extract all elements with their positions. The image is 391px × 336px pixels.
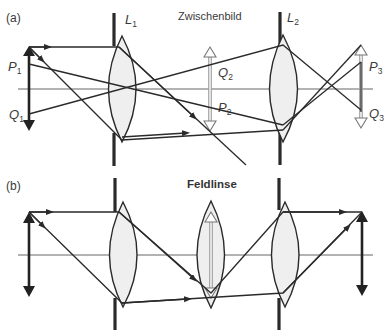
panel-b-label: (b): [6, 179, 21, 193]
panel-b: (b) Feldlinse: [6, 178, 373, 330]
rays-a: [29, 45, 361, 165]
point-p1-label: P1: [8, 59, 22, 76]
point-q1-label: Q1: [9, 107, 24, 124]
intermediate-arrowhead-top: [204, 47, 216, 57]
lens-l2: [270, 35, 298, 142]
final-arrowhead-bottom-a: [355, 118, 367, 128]
point-q2-label: Q2: [218, 65, 233, 82]
intermediate-image-title: Zwischenbild: [178, 10, 242, 22]
field-lens-title: Feldlinse: [187, 178, 237, 190]
point-p2-label: P2: [218, 100, 232, 117]
intermediate-arrowhead-bottom: [204, 121, 216, 131]
point-p3-label: P3: [369, 59, 383, 76]
object-arrowhead-bottom-a: [23, 120, 35, 131]
rays-b: [29, 212, 362, 303]
lens-l2-label: L2: [287, 10, 299, 27]
optics-diagram: (a) Zwischenbild L1 L2 P1 Q1 Q2 P2 P3: [0, 0, 391, 336]
lens-l1-b: [110, 202, 138, 307]
panel-a: (a) Zwischenbild L1 L2 P1 Q1 Q2 P2 P3: [6, 10, 384, 166]
point-q3-label: Q3: [369, 106, 384, 123]
lens-l1-label: L1: [125, 12, 137, 29]
panel-a-label: (a): [6, 11, 21, 25]
